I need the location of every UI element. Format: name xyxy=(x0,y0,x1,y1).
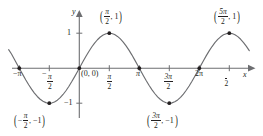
minus-sign: − xyxy=(18,117,23,125)
point-y-value: 1 xyxy=(114,13,118,21)
right-paren: ) xyxy=(42,114,45,128)
x-tick-label-2pi: 2π xyxy=(195,70,203,78)
y-tick-label-minus-1: −1 xyxy=(64,99,73,107)
data-point xyxy=(227,31,231,35)
point-label-max-1: (π2, 1) xyxy=(99,8,123,25)
point-label-max-2: (5π2, 1) xyxy=(213,8,241,25)
fraction-numerator: π xyxy=(23,112,29,121)
y-axis-label: y xyxy=(72,8,76,16)
x-tick-label-5pi-over-2: 2 xyxy=(223,70,230,87)
fraction-numerator: 3π xyxy=(164,73,174,82)
x-tick-label-minus-pi: −π xyxy=(13,70,22,78)
fraction: 5π2 xyxy=(218,8,228,25)
point-y-value: −1 xyxy=(165,117,174,125)
minus-sign: − xyxy=(42,69,47,78)
fraction: π2 xyxy=(104,8,110,25)
fraction: 3π2 xyxy=(164,73,174,90)
fraction: 2 xyxy=(224,78,230,88)
left-paren: ( xyxy=(147,114,150,128)
left-paren: ( xyxy=(214,10,217,24)
fraction: π2 xyxy=(23,112,29,129)
point-y-value: −1 xyxy=(33,117,42,125)
x-axis-label: x xyxy=(243,71,247,79)
y-tick-label-1: 1 xyxy=(67,29,71,37)
point-y-value: 1 xyxy=(232,13,236,21)
fraction-denominator: 2 xyxy=(107,82,113,90)
right-paren: ) xyxy=(237,10,240,24)
fraction-numerator: π xyxy=(104,8,110,17)
origin-label: (0, 0) xyxy=(81,70,98,78)
fraction-numerator: 3π xyxy=(151,112,161,121)
fraction-denominator: 2 xyxy=(224,79,230,87)
fraction-denominator: 2 xyxy=(47,82,53,90)
fraction-denominator: 2 xyxy=(220,17,226,25)
fraction-denominator: 2 xyxy=(104,17,110,25)
fraction-denominator: 2 xyxy=(165,82,171,90)
fraction-numerator: π xyxy=(47,73,53,82)
fraction: π2 xyxy=(107,73,113,90)
x-tick-label-3pi-over-2: 3π2 xyxy=(163,70,174,90)
left-paren: ( xyxy=(14,114,17,128)
point-label-min-2: (3π2, −1) xyxy=(146,112,178,129)
fraction-numerator: 5π xyxy=(218,8,228,17)
x-tick-label-pi-over-2: π2 xyxy=(106,70,113,90)
fraction-denominator: 2 xyxy=(23,121,29,129)
data-point xyxy=(47,101,51,105)
data-point xyxy=(107,31,111,35)
left-paren: ( xyxy=(100,10,103,24)
sine-graph-figure: y x 1 −1 (0, 0) −π −π2 π2 π 3π2 2π 2 (π2… xyxy=(0,0,263,136)
fraction: 3π2 xyxy=(151,112,161,129)
data-point xyxy=(167,101,171,105)
right-paren: ) xyxy=(119,10,122,24)
fraction-numerator: π xyxy=(107,73,113,82)
fraction-denominator: 2 xyxy=(153,121,159,129)
x-tick-label-minus-pi-over-2: −π2 xyxy=(42,70,53,90)
fraction: π2 xyxy=(47,73,53,90)
x-tick-label-pi: π xyxy=(136,70,140,78)
right-paren: ) xyxy=(175,114,178,128)
point-label-min-1: (−π2, −1) xyxy=(13,112,46,129)
